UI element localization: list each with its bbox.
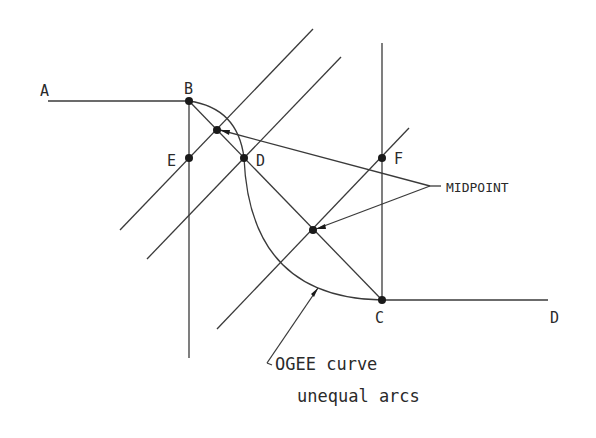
point-midpoint-2 [309,226,317,234]
label-f: F [394,150,403,168]
point-midpoint-1 [213,126,221,134]
arrowhead-2-icon [316,224,326,229]
point-e [185,154,193,162]
label-e: E [167,152,176,170]
label-midpoint: MIDPOINT [446,180,509,195]
label-a: A [40,82,49,100]
ogee-leader [267,288,318,363]
point-b [185,97,193,105]
ogee-diagram: A B E D F C D MIDPOINT OGEE curve unequa… [0,0,596,438]
point-c [378,296,386,304]
point-f [378,154,386,162]
label-d-curve: D [256,152,265,170]
label-b: B [184,80,193,98]
label-ogee-curve: OGEE curve [275,354,377,374]
point-d [240,154,248,162]
label-c: C [375,309,384,327]
label-d-end: D [550,309,559,327]
ogee-leader-tick [267,363,272,365]
label-unequal-arcs: unequal arcs [297,386,420,406]
